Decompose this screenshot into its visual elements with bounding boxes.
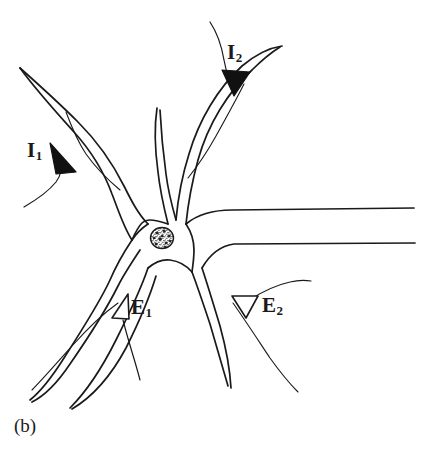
synapse-label-E1-text: E bbox=[131, 295, 145, 319]
synapse-label-E2: E2 bbox=[262, 295, 283, 316]
terminal-fiber-i1 bbox=[66, 112, 120, 190]
synapse-label-I1-sub: 1 bbox=[36, 148, 43, 163]
synapse-label-E2-sub: 2 bbox=[277, 303, 284, 318]
synapse-label-I2-sub: 2 bbox=[236, 50, 243, 65]
synapse-label-E2-text: E bbox=[262, 293, 276, 317]
synapse-label-E1-sub: 1 bbox=[146, 305, 153, 320]
synapse-label-I2-text: I bbox=[227, 40, 235, 64]
synapse-label-I2: I2 bbox=[227, 42, 242, 63]
dendrite-lower-right-inner bbox=[202, 268, 231, 388]
panel-label: (b) bbox=[14, 416, 36, 435]
synapse-label-E1: E1 bbox=[131, 297, 152, 318]
synapse-label-I1-text: I bbox=[27, 138, 35, 162]
soma-and-dendrites bbox=[20, 46, 415, 409]
dendrite-lower-left-b-outer bbox=[70, 268, 148, 408]
synapse-label-I1: I1 bbox=[27, 140, 42, 161]
neuron-drawing bbox=[0, 0, 430, 458]
axon-upper-edge bbox=[186, 208, 414, 224]
terminal-fiber-e1 bbox=[32, 303, 118, 390]
axon-lower-edge bbox=[202, 243, 415, 268]
neuron-figure: I1 I2 E1 E2 (b) bbox=[0, 0, 430, 458]
dendrite-lower-right-outer bbox=[192, 272, 228, 386]
soma-bottom-arch bbox=[148, 260, 192, 272]
synapse-marker-E1 bbox=[112, 294, 129, 319]
nucleus bbox=[151, 228, 174, 249]
soma-core-right bbox=[186, 224, 194, 272]
synapse-marker-I1 bbox=[50, 143, 76, 174]
